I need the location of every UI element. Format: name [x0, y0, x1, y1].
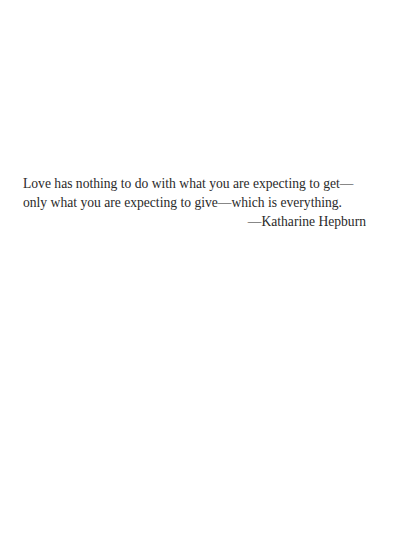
quote-attribution: —Katharine Hepburn [23, 212, 368, 231]
quote-line-1: Love has nothing to do with what you are… [23, 174, 368, 193]
quote-block: Love has nothing to do with what you are… [23, 174, 368, 231]
quote-line-2: only what you are expecting to give—whic… [23, 193, 368, 212]
